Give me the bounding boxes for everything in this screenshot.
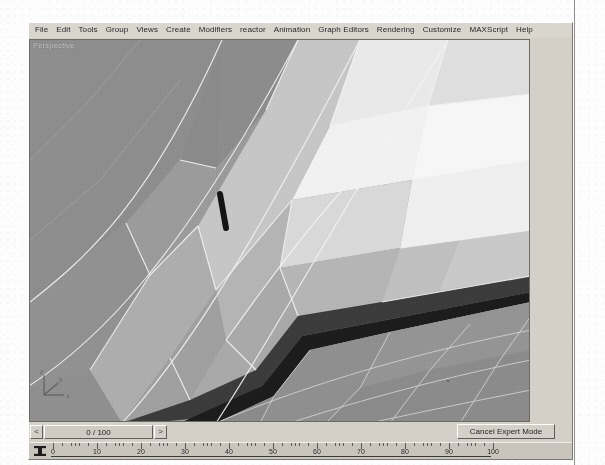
ruler-tick-minor (194, 443, 195, 446)
ruler-tick-minor (282, 443, 283, 446)
ruler-tick-minor (255, 443, 256, 446)
ruler-tick-minor (396, 443, 397, 446)
svg-text:z: z (40, 368, 43, 375)
ruler-tick-label: 0 (51, 448, 55, 455)
shaded-mesh-model (30, 40, 529, 421)
ruler-tick-minor (291, 443, 292, 446)
menu-item-reactor[interactable]: reactor (236, 25, 270, 35)
viewport-axis-tripod-icon: z x y (38, 367, 72, 401)
ruler-tick-minor (75, 443, 76, 446)
ruler-tick-minor (115, 443, 116, 446)
key-filter-icon[interactable] (31, 444, 48, 458)
ruler-tick-minor (247, 443, 248, 446)
perspective-viewport[interactable]: Perspective (29, 39, 530, 422)
track-bar[interactable]: 0102030405060708090100 (29, 442, 572, 460)
ruler-tick-minor (299, 443, 300, 446)
ruler-tick-minor (467, 443, 468, 446)
ruler-tick-minor (79, 443, 80, 446)
time-slider-row: < 0 / 100 > Cancel Expert Mode (29, 423, 572, 441)
page-edge-rule (574, 0, 575, 465)
ruler-tick-minor (431, 443, 432, 446)
ruler-tick-minor (150, 443, 151, 446)
ruler-tick-minor (308, 443, 309, 446)
ruler-tick-minor (387, 443, 388, 446)
ruler-tick-minor (207, 443, 208, 446)
ruler-tick-label: 50 (269, 448, 277, 455)
cancel-expert-mode-button[interactable]: Cancel Expert Mode (457, 424, 555, 439)
ruler-tick-label: 20 (137, 448, 145, 455)
ruler-tick-minor (295, 443, 296, 446)
ruler-tick-minor (159, 443, 160, 446)
menu-item-rendering[interactable]: Rendering (373, 25, 419, 35)
ruler-tick-label: 60 (313, 448, 321, 455)
viewport-render-area[interactable]: Perspective (30, 40, 529, 421)
ruler-tick-minor (88, 443, 89, 446)
ruler-tick-label: 100 (487, 448, 499, 455)
ruler-tick-label: 10 (93, 448, 101, 455)
ruler-tick-minor (339, 443, 340, 446)
menu-item-customize[interactable]: Customize (419, 25, 466, 35)
ruler-tick-minor (335, 443, 336, 446)
ruler-tick-minor (326, 443, 327, 446)
frame-ruler[interactable]: 0102030405060708090100 (51, 443, 572, 460)
time-slider-next-frame-button[interactable]: > (154, 425, 167, 439)
ruler-tick-minor (484, 443, 485, 446)
ruler-baseline (51, 456, 491, 457)
svg-text:y: y (59, 375, 63, 383)
ruler-tick-label: 80 (401, 448, 409, 455)
scanned-page: File Edit Tools Group Views Create Modif… (0, 0, 605, 465)
ruler-tick-minor (132, 443, 133, 446)
menu-bar: File Edit Tools Group Views Create Modif… (28, 22, 573, 38)
ruler-tick-minor (220, 443, 221, 446)
svg-text:x: x (66, 392, 70, 399)
ruler-tick-minor (458, 443, 459, 446)
ruler-tick-minor (427, 443, 428, 446)
ruler-tick-label: 70 (357, 448, 365, 455)
menu-item-maxscript[interactable]: MAXScript (465, 25, 512, 35)
ruler-tick-minor (106, 443, 107, 446)
ruler-tick-minor (475, 443, 476, 446)
ruler-tick-minor (264, 443, 265, 446)
ruler-tick-minor (203, 443, 204, 446)
menu-item-views[interactable]: Views (132, 25, 162, 35)
menu-item-modifiers[interactable]: Modifiers (195, 25, 236, 35)
application-window: File Edit Tools Group Views Create Modif… (28, 22, 573, 460)
ruler-tick-minor (423, 443, 424, 446)
menu-item-edit[interactable]: Edit (52, 25, 74, 35)
ruler-tick-minor (62, 443, 63, 446)
menu-item-tools[interactable]: Tools (74, 25, 101, 35)
ruler-tick-minor (343, 443, 344, 446)
ruler-tick-minor (370, 443, 371, 446)
ruler-tick-minor (167, 443, 168, 446)
time-slider-prev-frame-button[interactable]: < (30, 425, 43, 439)
menu-item-animation[interactable]: Animation (270, 25, 314, 35)
viewport-label[interactable]: Perspective (33, 41, 74, 50)
menu-item-help[interactable]: Help (512, 25, 537, 35)
ruler-tick-minor (414, 443, 415, 446)
ruler-tick-minor (176, 443, 177, 446)
ruler-tick-minor (211, 443, 212, 446)
ruler-tick-minor (352, 443, 353, 446)
time-slider-thumb[interactable]: 0 / 100 (44, 425, 153, 439)
ruler-tick-minor (123, 443, 124, 446)
ruler-tick-minor (471, 443, 472, 446)
ruler-tick-minor (383, 443, 384, 446)
menu-item-group[interactable]: Group (102, 25, 133, 35)
ruler-tick-label: 30 (181, 448, 189, 455)
ruler-tick-minor (379, 443, 380, 446)
menu-item-create[interactable]: Create (162, 25, 195, 35)
ruler-tick-minor (251, 443, 252, 446)
ruler-tick-minor (440, 443, 441, 446)
ruler-tick-minor (71, 443, 72, 446)
menu-item-graph-editors[interactable]: Graph Editors (314, 25, 373, 35)
ruler-tick-minor (238, 443, 239, 446)
menu-item-file[interactable]: File (31, 25, 52, 35)
ruler-tick-minor (163, 443, 164, 446)
ruler-tick-label: 40 (225, 448, 233, 455)
ruler-tick-minor (119, 443, 120, 446)
ruler-tick-label: 90 (445, 448, 453, 455)
